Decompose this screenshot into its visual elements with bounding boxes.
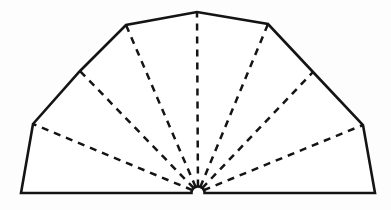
hub-group (192, 187, 205, 194)
fan-fold-diagram (0, 0, 391, 210)
fold-convergence-notch-icon (192, 187, 205, 194)
